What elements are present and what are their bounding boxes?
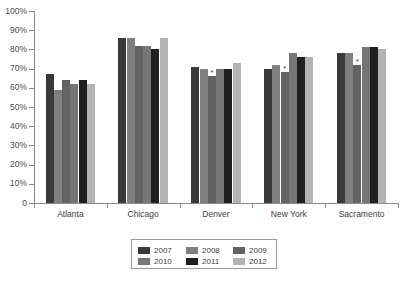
- bar-atlanta-2010: [70, 84, 78, 203]
- bar-denver-2009: [208, 76, 216, 203]
- legend-swatch-2008: [186, 247, 198, 254]
- legend-swatch-2009: [233, 247, 245, 254]
- legend-item-2010[interactable]: 2010: [138, 256, 172, 266]
- bar-atlanta-2007: [46, 74, 54, 203]
- legend-item-2009[interactable]: 2009: [233, 245, 267, 255]
- bar-atlanta-2008: [54, 90, 62, 203]
- legend-label-2012: 2012: [249, 257, 267, 266]
- bar-chicago-2008: [127, 38, 135, 203]
- bar-chicago-2011: [151, 49, 159, 203]
- legend-label-2011: 2011: [202, 257, 219, 266]
- bar-atlanta-2011: [79, 80, 87, 203]
- bar-sacramento-2011: [370, 47, 378, 203]
- legend-swatch-2010: [138, 258, 150, 265]
- bar-sacramento-2009: [353, 65, 361, 203]
- legend-swatch-2012: [233, 258, 245, 265]
- x-category-label: Denver: [180, 209, 253, 219]
- bar-sacramento-2007: [337, 53, 345, 203]
- bar-denver-2011: [224, 69, 232, 203]
- bar-atlanta-2012: [87, 84, 95, 203]
- bar-new-york-2011: [297, 57, 305, 203]
- bar-chart: 010%20%30%40%50%60%70%80%90%100% *** Atl…: [0, 0, 406, 281]
- bar-denver-2012: [233, 63, 241, 203]
- legend-label-2007: 2007: [154, 246, 172, 255]
- bar-sacramento-2012: [378, 49, 386, 203]
- bar-sacramento-2010: [362, 47, 370, 203]
- bar-chicago-2010: [143, 46, 151, 203]
- legend-label-2008: 2008: [202, 246, 220, 255]
- bar-denver-2008: [200, 69, 208, 203]
- bar-new-york-2008: [272, 65, 280, 203]
- x-category-label: Chicago: [107, 209, 180, 219]
- plot-area: 010%20%30%40%50%60%70%80%90%100% *** Atl…: [0, 0, 406, 232]
- legend-item-2011[interactable]: 2011: [186, 256, 219, 266]
- bar-denver-2007: [191, 67, 199, 203]
- bars-layer: ***: [0, 0, 406, 232]
- legend-label-2009: 2009: [249, 246, 267, 255]
- legend-item-2008[interactable]: 2008: [186, 245, 220, 255]
- bar-sacramento-2008: [345, 53, 353, 203]
- x-category-label: New York: [252, 209, 325, 219]
- bar-atlanta-2009: [62, 80, 70, 203]
- legend-swatch-2011: [186, 258, 198, 265]
- bar-chicago-2007: [118, 38, 126, 203]
- bar-new-york-2012: [305, 57, 313, 203]
- bar-chicago-2009: [135, 46, 143, 203]
- legend-label-2010: 2010: [154, 257, 172, 266]
- legend-item-2007[interactable]: 2007: [138, 245, 172, 255]
- bar-chicago-2012: [160, 38, 168, 203]
- bar-new-york-2009: [281, 72, 289, 203]
- chart-legend: 200720082009201020112012: [131, 239, 277, 269]
- x-category-label: Atlanta: [34, 209, 107, 219]
- bar-new-york-2007: [264, 69, 272, 203]
- x-category-label: Sacramento: [325, 209, 398, 219]
- bar-denver-2010: [216, 69, 224, 203]
- bar-new-york-2010: [289, 53, 297, 203]
- legend-item-2012[interactable]: 2012: [233, 256, 267, 266]
- legend-swatch-2007: [138, 247, 150, 254]
